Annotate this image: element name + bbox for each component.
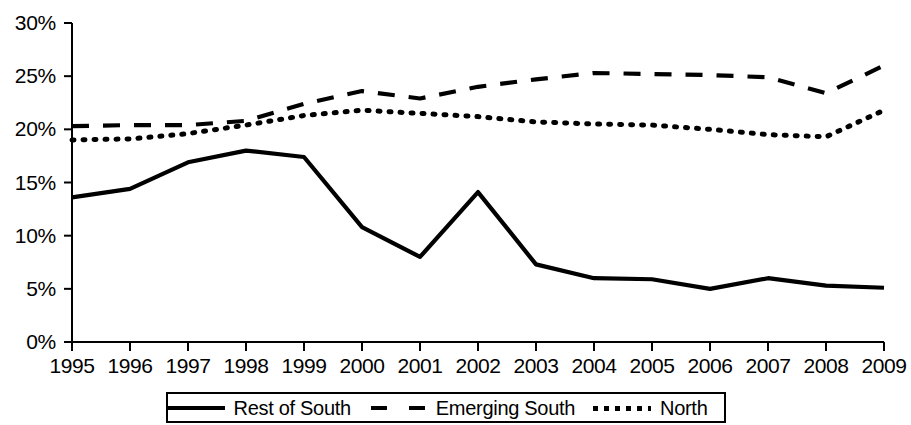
y-axis-tick-label: 25% [0, 65, 56, 86]
x-axis-tick-label: 1996 [100, 355, 160, 376]
x-axis-tick-label: 2003 [506, 355, 566, 376]
x-axis-tick-label: 2007 [738, 355, 798, 376]
y-axis-tick-label: 5% [0, 278, 56, 299]
x-axis-tick-label: 2004 [564, 355, 624, 376]
y-axis-tick-label: 15% [0, 172, 56, 193]
series-line-north [72, 110, 884, 140]
y-axis-tick-label: 0% [0, 331, 56, 352]
y-axis-tick-label: 30% [0, 12, 56, 33]
x-axis-tick-label: 2006 [680, 355, 740, 376]
x-axis-tick-label: 2000 [332, 355, 392, 376]
series-line-rest-of-south [72, 151, 884, 289]
x-axis-tick-label: 2002 [448, 355, 508, 376]
y-axis-tick-label: 10% [0, 225, 56, 246]
legend-swatch-dotted-line-icon [593, 401, 651, 415]
legend-label: Emerging South [436, 398, 575, 418]
x-axis-tick-label: 2005 [622, 355, 682, 376]
x-axis-tick-label: 1998 [216, 355, 276, 376]
axes [64, 23, 884, 351]
chart-legend: Rest of SouthEmerging SouthNorth [166, 392, 726, 423]
x-axis-tick-label: 2001 [390, 355, 450, 376]
y-axis-tick-label: 20% [0, 118, 56, 139]
legend-swatch-solid-line-icon [167, 401, 225, 415]
legend-item-rest-of-south: Rest of South [167, 398, 369, 418]
legend-label: Rest of South [234, 398, 351, 418]
data-series-group [72, 66, 884, 289]
legend-item-emerging-south: Emerging South [369, 398, 593, 418]
x-axis-tick-label: 2009 [854, 355, 911, 376]
x-axis-tick-label: 1995 [42, 355, 102, 376]
legend-label: North [660, 398, 707, 418]
x-axis-tick-label: 1999 [274, 355, 334, 376]
x-axis-tick-label: 1997 [158, 355, 218, 376]
x-axis-tick-label: 2008 [796, 355, 856, 376]
legend-item-north: North [593, 398, 725, 418]
legend-swatch-dashed-line-icon [369, 401, 427, 415]
